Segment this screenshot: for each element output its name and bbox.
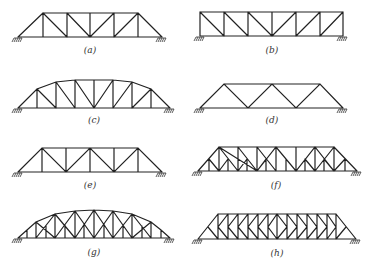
truss-diagram: (a) (b) (c) (d) (e) (f) (g) (h) xyxy=(0,0,372,269)
truss-h: (h) xyxy=(192,214,360,258)
label-b: (b) xyxy=(266,45,279,55)
label-f: (f) xyxy=(271,180,282,190)
label-d: (d) xyxy=(266,115,279,125)
truss-d: (d) xyxy=(194,84,347,125)
truss-f: (f) xyxy=(192,147,361,190)
label-a: (a) xyxy=(84,45,97,55)
truss-c: (c) xyxy=(12,80,174,125)
truss-g: (g) xyxy=(12,210,174,257)
truss-a: (a) xyxy=(12,13,166,55)
truss-e: (e) xyxy=(12,148,166,190)
label-h: (h) xyxy=(271,248,284,258)
label-e: (e) xyxy=(84,180,97,190)
label-g: (g) xyxy=(88,247,101,257)
label-c: (c) xyxy=(88,115,101,125)
truss-b: (b) xyxy=(194,12,347,55)
